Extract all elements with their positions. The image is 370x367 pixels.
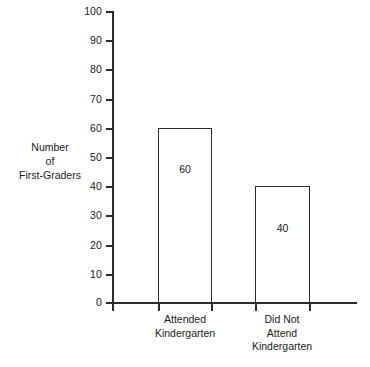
- y-axis-tick: [106, 11, 112, 13]
- bar-attended-kindergarten[interactable]: [158, 128, 212, 303]
- y-axis-title-line: Number: [2, 140, 98, 154]
- y-axis-tick-label: 70: [90, 94, 102, 105]
- x-axis-category-label-did-not-attend: Did Not Attend Kindergarten: [222, 313, 342, 354]
- y-axis-tick-label: 30: [90, 210, 102, 221]
- y-axis-line: [112, 11, 114, 304]
- x-axis-tick: [211, 304, 213, 311]
- bar-value-label: 60: [158, 164, 212, 175]
- y-axis-title-line: of: [2, 154, 98, 168]
- x-axis-tick: [255, 304, 257, 311]
- bar-did-not-attend-kindergarten[interactable]: [255, 186, 310, 303]
- y-axis-tick-label: 10: [90, 269, 102, 280]
- y-axis-tick-label: 100: [84, 6, 102, 17]
- y-axis-tick: [106, 245, 112, 247]
- x-axis-tick: [112, 304, 114, 311]
- y-axis-tick: [106, 128, 112, 130]
- y-axis-tick-label: 40: [90, 181, 102, 192]
- y-axis-tick: [106, 40, 112, 42]
- x-axis-category-line: Attend: [222, 327, 342, 341]
- y-axis-tick: [106, 69, 112, 71]
- y-axis-tick-label: 90: [90, 35, 102, 46]
- y-axis-tick: [106, 215, 112, 217]
- x-axis-line: [112, 302, 357, 304]
- y-axis-tick-label: 0: [96, 297, 102, 308]
- bar-value-label: 40: [255, 223, 310, 234]
- y-axis-tick: [106, 274, 112, 276]
- y-axis-tick-label: 20: [90, 240, 102, 251]
- x-axis-category-line: Did Not: [222, 313, 342, 327]
- y-axis-tick-label: 80: [90, 64, 102, 75]
- y-axis-tick: [106, 157, 112, 159]
- y-axis-tick: [106, 99, 112, 101]
- bar-chart: 100 90 80 70 60 50 40 30 20 10 0 60 40 A…: [0, 0, 370, 367]
- y-axis-tick: [106, 186, 112, 188]
- y-axis-tick-label: 60: [90, 123, 102, 134]
- x-axis-tick: [158, 304, 160, 311]
- x-axis-tick: [309, 304, 311, 311]
- y-axis-title-line: First-Graders: [2, 168, 98, 182]
- x-axis-category-line: Kindergarten: [222, 340, 342, 354]
- y-axis-title: Number of First-Graders: [2, 140, 98, 182]
